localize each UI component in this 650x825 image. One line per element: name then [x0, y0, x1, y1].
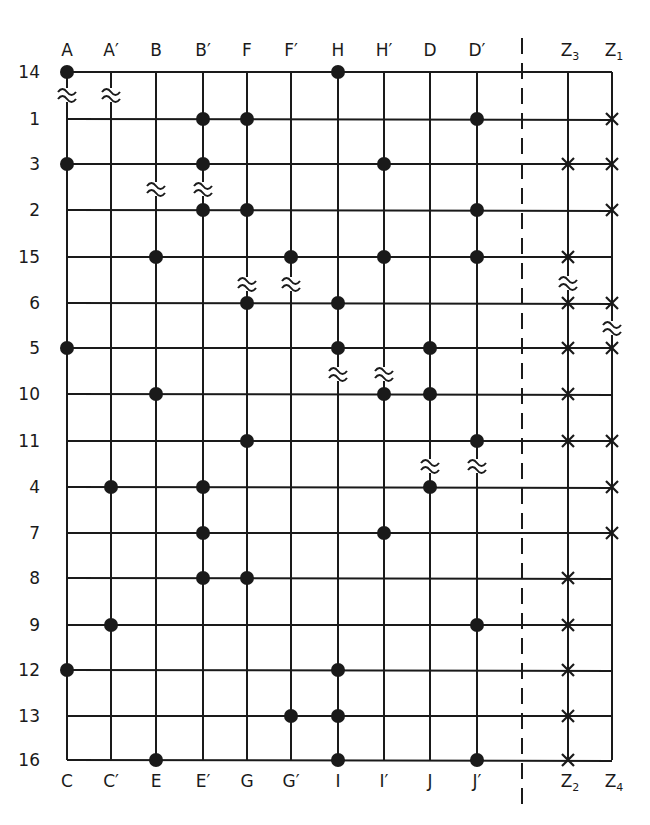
connection-dot-icon — [196, 526, 210, 540]
connection-dot-icon — [196, 480, 210, 494]
connection-dot-icon — [240, 434, 254, 448]
connection-dot-icon — [470, 203, 484, 217]
connection-dot-icon — [470, 434, 484, 448]
connection-dot-icon — [331, 753, 345, 767]
break-mark-icon — [375, 367, 393, 381]
column-label-bottom: E — [151, 771, 162, 791]
column-label-top: Z3 — [561, 40, 580, 63]
connection-dot-icon — [377, 250, 391, 264]
connection-dot-icon — [423, 387, 437, 401]
row-lines — [67, 72, 612, 761]
column-label-bottom: I′ — [380, 771, 389, 791]
connection-dot-icon — [60, 65, 74, 79]
break-mark-icon — [238, 277, 256, 291]
row-label: 16 — [18, 750, 40, 770]
connection-dot-icon — [149, 753, 163, 767]
connection-dot-icon — [240, 296, 254, 310]
wiring-matrix-diagram: AA′BB′FF′HH′DD′Z3Z1 CC′EE′GG′II′JJ′Z2Z4 … — [0, 0, 650, 825]
break-mark-icon — [421, 459, 439, 473]
column-labels-bottom: CC′EE′GG′II′JJ′Z2Z4 — [61, 771, 623, 794]
connection-dot-icon — [196, 157, 210, 171]
column-label-bottom: C — [61, 771, 73, 791]
connection-dot-icon — [284, 709, 298, 723]
connection-dot-icon — [196, 112, 210, 126]
row-line-2 — [67, 210, 612, 211]
connection-dot-icon — [60, 157, 74, 171]
connection-dot-icon — [423, 480, 437, 494]
connection-dot-icon — [331, 296, 345, 310]
row-label: 11 — [18, 431, 40, 451]
connection-dot-icon — [284, 250, 298, 264]
connection-dot-icon — [377, 387, 391, 401]
connection-dot-icon — [331, 65, 345, 79]
column-label-top: D′ — [469, 40, 486, 60]
connection-dots — [60, 65, 484, 767]
row-label: 15 — [18, 247, 40, 267]
row-label: 10 — [18, 384, 40, 404]
connection-dot-icon — [423, 341, 437, 355]
row-label: 9 — [29, 615, 40, 635]
column-label-bottom: Z4 — [605, 771, 624, 794]
column-label-bottom: G′ — [282, 771, 299, 791]
row-label: 5 — [29, 338, 40, 358]
column-label-top: H′ — [376, 40, 393, 60]
connection-dot-icon — [331, 663, 345, 677]
connection-dot-icon — [331, 709, 345, 723]
column-label-bottom: I — [335, 771, 340, 791]
column-label-bottom: J — [426, 771, 432, 791]
column-label-top: A — [61, 40, 73, 60]
connection-dot-icon — [470, 753, 484, 767]
break-mark-icon — [282, 277, 300, 291]
connection-dot-icon — [196, 571, 210, 585]
column-label-top: F′ — [284, 40, 298, 60]
break-marks — [58, 88, 621, 473]
break-mark-icon — [468, 459, 486, 473]
row-label: 12 — [18, 660, 40, 680]
break-mark-icon — [329, 367, 347, 381]
column-label-top: A′ — [103, 40, 119, 60]
column-label-top: H — [332, 40, 345, 60]
break-mark-icon — [58, 88, 76, 102]
column-label-top: F — [242, 40, 252, 60]
break-mark-icon — [147, 182, 165, 196]
connection-dot-icon — [470, 112, 484, 126]
column-lines — [67, 72, 612, 760]
row-label: 2 — [29, 200, 40, 220]
row-line-1 — [67, 119, 612, 120]
column-label-top: Z1 — [605, 40, 624, 63]
connection-dot-icon — [331, 341, 345, 355]
break-mark-icon — [102, 88, 120, 102]
column-label-bottom: Z2 — [561, 771, 580, 794]
column-label-bottom: J′ — [472, 771, 482, 791]
connection-dot-icon — [470, 250, 484, 264]
row-line-8 — [67, 578, 612, 579]
column-label-bottom: C′ — [103, 771, 119, 791]
connection-dot-icon — [60, 341, 74, 355]
row-line-4 — [67, 487, 612, 488]
connection-dot-icon — [196, 203, 210, 217]
column-label-bottom: G — [240, 771, 253, 791]
row-label: 4 — [29, 477, 40, 497]
connection-dot-icon — [240, 203, 254, 217]
row-label: 14 — [18, 62, 40, 82]
row-label: 7 — [29, 523, 40, 543]
connection-dot-icon — [149, 250, 163, 264]
break-mark-icon — [559, 276, 577, 290]
break-mark-icon — [603, 321, 621, 335]
row-labels: 14132156510114789121316 — [18, 62, 40, 770]
connection-dot-icon — [240, 571, 254, 585]
connection-dot-icon — [60, 663, 74, 677]
connection-dot-icon — [149, 387, 163, 401]
column-label-bottom: E′ — [196, 771, 211, 791]
row-label: 6 — [29, 293, 40, 313]
connection-dot-icon — [377, 526, 391, 540]
connection-dot-icon — [240, 112, 254, 126]
column-label-top: D — [423, 40, 436, 60]
column-label-top: B — [150, 40, 162, 60]
connection-dot-icon — [104, 618, 118, 632]
row-label: 13 — [18, 706, 40, 726]
row-line-10 — [67, 394, 612, 395]
row-label: 8 — [29, 568, 40, 588]
connection-dot-icon — [377, 157, 391, 171]
break-mark-icon — [194, 182, 212, 196]
